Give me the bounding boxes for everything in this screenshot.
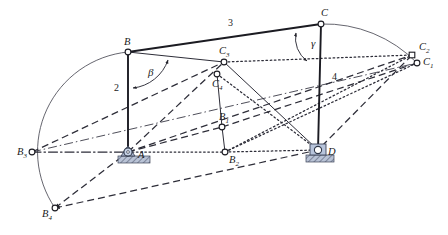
- dotted-C4-to-D: [217, 74, 318, 150]
- dashed-B4-to-D: [55, 150, 318, 208]
- point-label-sub-B3: 3: [22, 152, 27, 160]
- arc-gamma: [295, 33, 307, 61]
- angle-arc-group: [133, 33, 307, 88]
- construction-dashed-group: [32, 55, 417, 208]
- support-A-hatch: [118, 156, 150, 163]
- dashed-A-to-C3: [128, 62, 224, 152]
- point-label-A: A: [137, 149, 145, 160]
- dotted-B2-to-C1: [225, 63, 417, 152]
- solid-C3-to-D: [224, 62, 318, 150]
- point-label-sub-B4: 4: [48, 214, 52, 222]
- joint-marker-B: [125, 49, 131, 55]
- point-label-C1: C1: [423, 56, 434, 70]
- main-links-group: [128, 24, 321, 152]
- link-label-4: 4: [332, 71, 337, 82]
- angle-label-gamma: γ: [311, 37, 316, 49]
- joint-marker-B2: [222, 149, 228, 155]
- arc-B-path: [38, 52, 128, 208]
- construction-dashdot-group: [32, 63, 417, 152]
- support-A-pin-center: [127, 151, 130, 154]
- point-label-sub-C1: 1: [430, 62, 434, 70]
- construction-solid-thin-group: [128, 52, 318, 152]
- point-label-sub-C2: 2: [426, 47, 430, 55]
- joint-marker-C: [318, 21, 324, 27]
- point-label-B1: B1: [219, 111, 229, 125]
- link-label-3: 3: [228, 17, 233, 28]
- point-label-B3: B3: [17, 146, 27, 160]
- support-D-pin: [314, 146, 321, 153]
- joint-marker-C1: [414, 60, 420, 66]
- point-label-C: C: [321, 7, 329, 18]
- point-label-sub-B2: 2: [235, 160, 239, 168]
- joint-marker-B3: [29, 149, 35, 155]
- point-label-D: D: [327, 146, 336, 157]
- point-label-C4: C4: [212, 78, 223, 92]
- arc-C-path: [321, 24, 417, 63]
- link-label-2: 2: [114, 82, 119, 93]
- dashdot-B3-to-C1: [32, 63, 417, 152]
- joint-marker-C3: [221, 59, 227, 65]
- joint-marker-B4: [52, 205, 58, 211]
- dashed-A-to-C2: [128, 55, 412, 152]
- joint-marker-C2: [409, 52, 415, 58]
- figure-root: ABCDB1B2B3B4C1C2C3C4 2 3 4 β γ: [0, 0, 448, 235]
- point-label-B: B: [124, 36, 131, 47]
- construction-dotted-group: [32, 55, 417, 152]
- point-label-sub-B1: 1: [225, 117, 229, 125]
- point-label-sub-C4: 4: [219, 84, 223, 92]
- dotted-B2-to-D: [225, 150, 318, 152]
- point-label-C2: C2: [419, 41, 430, 55]
- angle-label-beta: β: [147, 66, 154, 78]
- point-label-sub-C3: 3: [225, 51, 230, 59]
- point-label-B2: B2: [229, 154, 239, 168]
- dotted-C3-to-C2: [224, 55, 412, 62]
- point-label-C3: C3: [219, 45, 230, 59]
- joint-marker-B1: [219, 124, 225, 130]
- linkage-diagram: ABCDB1B2B3B4C1C2C3C4 2 3 4 β γ: [0, 0, 448, 235]
- ground-support-A: [118, 146, 150, 163]
- label-group: ABCDB1B2B3B4C1C2C3C4: [17, 7, 434, 222]
- point-label-B4: B4: [42, 208, 52, 222]
- joint-marker-C4: [214, 71, 220, 77]
- solid-B1-to-B2: [222, 127, 225, 152]
- solid-B-to-C3: [128, 52, 224, 62]
